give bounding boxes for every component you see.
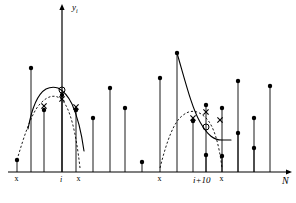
tick-label-i-plus-10: i+10	[193, 176, 211, 185]
dashed-fit-curve-1	[17, 96, 80, 168]
stem-head-dot	[108, 86, 112, 90]
stem-head-dot	[268, 84, 272, 88]
plot-canvas	[0, 0, 296, 203]
stem-head-dot	[91, 116, 95, 120]
stem-head-dot	[140, 160, 144, 164]
window-marker-left-2: x	[158, 175, 162, 183]
stem-group	[15, 51, 272, 172]
axis-group	[8, 4, 292, 175]
stem-head-dot	[236, 79, 240, 83]
stem-head-dot	[42, 108, 46, 112]
stem-head-dot	[204, 153, 208, 157]
window-marker-right-2: x	[220, 175, 224, 183]
window-marker-right-1: x	[77, 175, 81, 183]
y-axis-label: yi	[72, 3, 78, 14]
stem-head-dot	[220, 106, 224, 110]
x-axis-arrowhead	[286, 169, 292, 174]
dashed-curve-group	[17, 96, 222, 168]
circle-marker-group	[59, 87, 209, 130]
stem-head-dot	[158, 76, 162, 80]
x-axis-label: N	[282, 176, 289, 186]
stem-head-dot	[252, 116, 256, 120]
solid-curve-group	[28, 53, 231, 151]
tick-label-i: i	[60, 176, 62, 184]
figure-caption	[0, 194, 296, 203]
figure-stem-plot-with-interpolation-curves: yi N ii+10 xxxx	[0, 0, 296, 203]
stem-head-dot	[204, 103, 208, 107]
stem-head-dot	[29, 66, 33, 70]
stem-head-dot	[252, 146, 256, 150]
stem-head-dot	[123, 106, 127, 110]
curve-x-marker-group	[41, 96, 222, 122]
solid-fit-curve-2	[177, 53, 231, 140]
window-marker-left-1: x	[15, 175, 19, 183]
y-axis-arrowhead	[59, 4, 64, 10]
y-axis-label-subscript: i	[76, 8, 78, 14]
